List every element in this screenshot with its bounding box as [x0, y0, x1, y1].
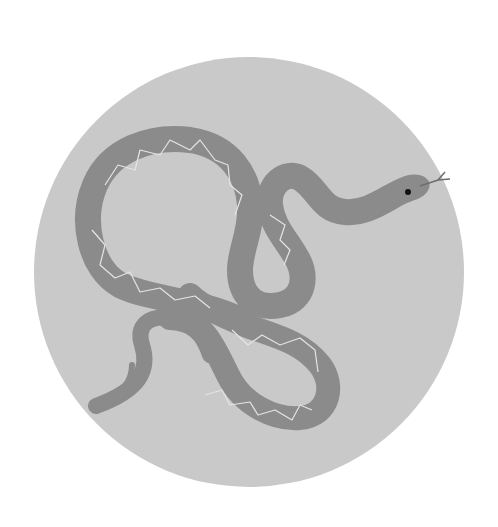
snake-artwork	[0, 0, 498, 527]
snake-illustration	[0, 0, 498, 527]
snake-eye	[405, 189, 411, 195]
